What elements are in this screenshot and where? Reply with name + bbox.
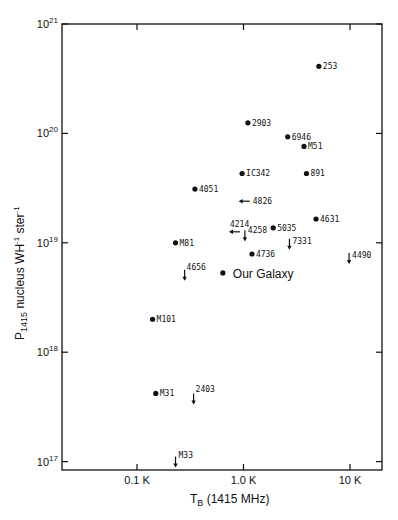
data-point: M51 (301, 142, 322, 151)
point-label: 4631 (320, 215, 339, 224)
data-point: 4736 (249, 250, 275, 259)
point-label: 6946 (292, 133, 311, 142)
x-axis-title: TB (1415 MHz) (190, 492, 269, 508)
scatter-chart: 0.1 K1.0 K10 K10211020101910181017 25329… (0, 0, 398, 520)
dot-marker-icon (239, 171, 244, 176)
dot-marker-icon (220, 270, 225, 275)
point-label: 4214 (230, 220, 249, 229)
data-point: 891 (304, 169, 325, 178)
dot-marker-icon (304, 171, 309, 176)
point-label: 4490 (352, 251, 371, 260)
data-point: M33 (173, 451, 193, 468)
point-label: Our Galaxy (233, 267, 294, 281)
y-tick-label: 1020 (37, 125, 59, 139)
data-point: 2403 (191, 385, 215, 404)
point-label: 4826 (253, 197, 272, 206)
data-point: 7331 (287, 237, 312, 250)
dot-marker-icon (313, 216, 318, 221)
data-point: 253 (316, 62, 337, 71)
data-point: 4051 (192, 185, 218, 194)
dot-marker-icon (285, 134, 290, 139)
data-points: 25329036946M51IC342891405148264631421450… (150, 62, 372, 467)
data-point: 6946 (285, 133, 311, 142)
data-point: 4490 (347, 251, 372, 264)
point-label: 4656 (187, 263, 206, 272)
data-point: 4631 (313, 215, 339, 224)
point-label: 891 (310, 169, 325, 178)
data-point: IC342 (239, 169, 270, 178)
data-point: 2903 (245, 119, 271, 128)
y-tick-label: 1017 (37, 454, 59, 468)
dot-marker-icon (245, 120, 250, 125)
point-label: M101 (157, 315, 176, 324)
x-tick-label: 0.1 K (124, 474, 150, 486)
data-point: M101 (150, 315, 176, 324)
dot-marker-icon (192, 186, 197, 191)
point-label: 2903 (252, 119, 271, 128)
y-tick-label: 1019 (37, 235, 59, 249)
y-axis-title: P1415 nucleus WH-1 ster-1 (12, 206, 29, 340)
y-tick-label: 1018 (37, 344, 59, 358)
point-label: M51 (308, 142, 323, 151)
data-point: 4826 (239, 197, 272, 206)
data-point: M81 (173, 239, 194, 248)
dot-marker-icon (153, 391, 158, 396)
dot-marker-icon (249, 251, 254, 256)
dot-marker-icon (301, 144, 306, 149)
point-label: M33 (179, 451, 194, 460)
point-label: 4736 (256, 250, 275, 259)
data-point: M31 (153, 389, 174, 398)
data-point: 4214 (229, 220, 249, 234)
axis-ticks: 0.1 K1.0 K10 K10211020101910181017 (37, 16, 382, 486)
data-point: 4656 (182, 263, 206, 281)
dot-marker-icon (173, 240, 178, 245)
point-label: M31 (160, 389, 175, 398)
point-label: 5035 (277, 224, 296, 233)
point-label: 2403 (196, 385, 215, 394)
dot-marker-icon (316, 64, 321, 69)
point-label: 4051 (199, 185, 218, 194)
dot-marker-icon (271, 225, 276, 230)
point-label: IC342 (246, 169, 270, 178)
point-label: M81 (180, 239, 195, 248)
data-point: 5035 (271, 224, 297, 233)
point-label: 7331 (292, 237, 311, 246)
plot-frame (62, 24, 382, 470)
y-tick-label: 1021 (37, 16, 59, 30)
point-label: 253 (323, 62, 338, 71)
x-tick-label: 10 K (339, 474, 362, 486)
point-label: 4258 (248, 226, 267, 235)
x-tick-label: 1.0 K (231, 474, 257, 486)
dot-marker-icon (150, 317, 155, 322)
data-point: Our Galaxy (220, 267, 293, 281)
